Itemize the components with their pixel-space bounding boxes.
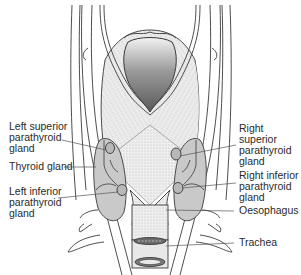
thyroid-parathyroid-diagram: Left superior parathyroid gland Thyroid … (0, 0, 301, 275)
label-trachea: Trachea (239, 237, 277, 248)
right-inferior-parathyroid-gland (173, 183, 183, 194)
label-right-superior-parathyroid-gland: Right superior parathyroid gland (239, 123, 301, 167)
label-right-inferior-parathyroid-gland: Right inferior parathyroid gland (239, 170, 299, 203)
right-superior-parathyroid-gland (171, 148, 181, 160)
label-thyroid-gland: Thyroid gland (9, 161, 73, 172)
left-inferior-parathyroid-gland (117, 185, 127, 196)
label-left-superior-parathyroid-gland: Left superior parathyroid gland (9, 121, 67, 154)
label-left-inferior-parathyroid-gland: Left inferior parathyroid gland (9, 186, 62, 219)
left-superior-parathyroid-gland (106, 143, 115, 154)
label-oesophagus: Oesophagus (239, 205, 299, 216)
oesophagus-body (132, 205, 168, 240)
